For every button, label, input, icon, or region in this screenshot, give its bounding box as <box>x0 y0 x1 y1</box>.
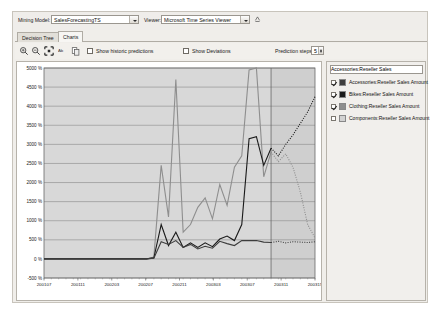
mining-model-dropdown[interactable]: SalesForecastingTS <box>51 15 139 24</box>
prediction-steps-stepper[interactable]: 5 <box>311 46 324 55</box>
y-axis-tick-label: 5000 % <box>26 66 42 71</box>
y-axis-tick-label: 3500 % <box>26 123 42 128</box>
x-axis-tick-label: 200111 <box>71 282 86 287</box>
y-axis-tick-label: 1500 % <box>26 199 42 204</box>
legend-item-checkbox[interactable] <box>331 116 336 121</box>
legend-color-swatch <box>339 103 346 110</box>
legend-item-label: Bikes:Reseller Sales Amount <box>349 91 413 98</box>
legend-item[interactable]: Accessories:Reseller Sales Amount <box>330 77 423 89</box>
legend-panel: Accessories:Reseller Sales Amount,Bikes.… <box>326 61 426 301</box>
legend-item[interactable]: Components:Reseller Sales Amount <box>330 113 423 125</box>
y-axis-tick-label: 4500 % <box>26 85 42 90</box>
time-series-viewer-window: Mining Model: SalesForecastingTS Viewer:… <box>12 11 428 303</box>
svg-text:Ab: Ab <box>58 48 64 53</box>
y-axis-tick-label: 4000 % <box>26 104 42 109</box>
x-axis-tick-label: 200207 <box>138 282 153 287</box>
x-axis-tick-label: 200303 <box>206 282 221 287</box>
viewer-dropdown[interactable]: Microsoft Time Series Viewer <box>161 15 250 24</box>
abc-icon[interactable]: Ab <box>58 46 68 56</box>
show-historic-predictions-checkbox[interactable] <box>87 48 93 54</box>
view-tabs: Decision Tree Charts <box>15 31 427 42</box>
chart-panel[interactable]: 5000 %4500 %4000 %3500 %3000 %2500 %2000… <box>16 61 322 301</box>
chevron-down-icon[interactable] <box>129 16 138 23</box>
tab-charts[interactable]: Charts <box>58 31 83 42</box>
zoom-in-icon[interactable] <box>19 46 29 56</box>
legend-series-value: Accessories:Reseller Sales Amount,Bikes.… <box>331 66 392 74</box>
zoom-out-icon[interactable] <box>31 46 41 56</box>
x-axis-tick-label: 200315 <box>308 282 321 287</box>
prediction-region <box>271 68 315 278</box>
fit-to-screen-icon[interactable] <box>44 46 54 56</box>
legend-item-checkbox[interactable] <box>331 104 336 109</box>
tab-decision-tree[interactable]: Decision Tree <box>17 32 59 42</box>
legend-color-swatch <box>339 91 346 98</box>
x-axis-tick-label: 200211 <box>172 282 187 287</box>
x-axis-tick-label: 200307 <box>240 282 255 287</box>
copy-icon[interactable] <box>71 46 81 56</box>
y-axis-tick-label: 2000 % <box>26 180 42 185</box>
prediction-steps-value: 5 <box>314 48 317 55</box>
stepper-arrows-icon[interactable] <box>318 47 323 54</box>
chart-toolbar: Ab Show historic predictions Show Deviat… <box>15 43 427 59</box>
y-axis-tick-label: 1000 % <box>26 218 42 223</box>
mining-model-label: Mining Model: <box>18 17 50 24</box>
show-deviations-checkbox[interactable] <box>183 48 189 54</box>
legend-item-label: Accessories:Reseller Sales Amount <box>349 79 428 86</box>
y-axis-tick-label: 2500 % <box>26 161 42 166</box>
legend-item[interactable]: Clothing:Reseller Sales Amount <box>330 101 423 113</box>
model-selection-bar: Mining Model: SalesForecastingTS Viewer:… <box>13 12 427 30</box>
prediction-steps-label: Prediction steps: <box>275 48 313 55</box>
viewer-value: Microsoft Time Series Viewer <box>164 17 231 24</box>
legend-item-label: Components:Reseller Sales Amount <box>349 115 429 122</box>
time-series-chart[interactable]: 5000 %4500 %4000 %3500 %3000 %2500 %2000… <box>17 62 321 300</box>
y-axis-tick-label: -500 % <box>27 276 42 281</box>
y-axis-tick-label: 3000 % <box>26 142 42 147</box>
legend-series-list: Accessories:Reseller Sales AmountBikes:R… <box>330 77 423 125</box>
legend-color-swatch <box>339 115 346 122</box>
show-historic-predictions-label[interactable]: Show historic predictions <box>96 48 153 55</box>
legend-item-label: Clothing:Reseller Sales Amount <box>349 103 419 110</box>
x-axis-tick-label: 200107 <box>37 282 52 287</box>
legend-item[interactable]: Bikes:Reseller Sales Amount <box>330 89 423 101</box>
mining-model-value: SalesForecastingTS <box>54 17 101 24</box>
y-axis-tick-label: 500 % <box>29 237 42 242</box>
x-axis-tick-label: 200203 <box>104 282 119 287</box>
legend-series-dropdown[interactable]: Accessories:Reseller Sales Amount,Bikes.… <box>330 65 423 74</box>
viewer-label: Viewer: <box>144 17 161 24</box>
chevron-down-icon[interactable] <box>240 16 249 23</box>
show-deviations-label[interactable]: Show Deviations <box>192 48 231 55</box>
y-axis-tick-label: 0 % <box>34 257 42 262</box>
legend-item-checkbox[interactable] <box>331 92 336 97</box>
legend-item-checkbox[interactable] <box>331 80 336 85</box>
x-axis-tick-label: 200311 <box>274 282 289 287</box>
legend-color-swatch <box>339 79 346 86</box>
refresh-icon[interactable] <box>254 15 261 23</box>
